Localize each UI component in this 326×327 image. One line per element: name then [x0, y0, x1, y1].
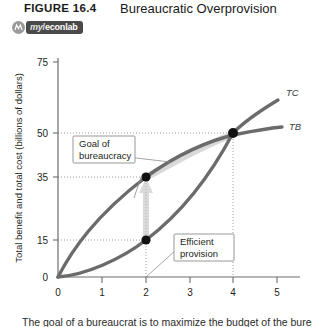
x-axis-title: Quantity (number of satellites) [185, 301, 312, 303]
point-efficient-provision [228, 128, 238, 138]
myeconlab-wordmark-econlab: econlab [45, 23, 78, 32]
annotation-efficient-line2: provision [180, 248, 218, 259]
y-tick-label-75: 75 [37, 57, 49, 68]
annotation-efficient-provision: Efficient provision [146, 234, 234, 277]
y-tick-label-0: 0 [42, 272, 48, 283]
y-axis-ticks [53, 62, 58, 240]
x-tick-label-0: 0 [55, 287, 61, 298]
figure-number: FIGURE 16.4 [24, 2, 96, 14]
y-tick-label-15: 15 [37, 235, 49, 246]
x-axis-ticks [102, 277, 277, 283]
marked-points [141, 128, 238, 245]
curve-label-tc: TC [286, 87, 299, 98]
point-cost-at-q2 [141, 235, 150, 244]
curve-tc [58, 100, 278, 277]
myeconlab-wordmark-my: my [30, 23, 43, 32]
y-axis-title: Total benefit and total cost (billions o… [13, 73, 24, 263]
curve-label-tb: TB [289, 121, 302, 132]
x-tick-labels: 0 1 2 3 4 5 [55, 287, 280, 298]
x-tick-label-2: 2 [143, 287, 149, 298]
overprovision-arrow [139, 178, 153, 238]
x-tick-label-4: 4 [230, 287, 236, 298]
figure-title: Bureaucratic Overprovision [120, 1, 277, 16]
annotation-goal-line2: bureaucracy [79, 150, 132, 161]
figure-header: FIGURE 16.4 Bureaucratic Overprovision [0, 0, 326, 19]
myeconlab-wordmark-slash: / [43, 23, 45, 32]
annotation-goal-line1: Goal of [79, 138, 110, 149]
x-tick-label-5: 5 [274, 287, 280, 298]
annotation-efficient-line1: Efficient [180, 236, 214, 247]
figure-caption: The goal of a bureaucrat is to maximize … [22, 316, 312, 327]
x-tick-label-3: 3 [187, 287, 193, 298]
chart-plot-area: 75 50 35 15 0 0 1 2 3 4 5 TC TB [0, 38, 326, 303]
chart-figure: 75 50 35 15 0 0 1 2 3 4 5 TC TB [0, 38, 326, 303]
myeconlab-badge[interactable]: my/econlab [12, 21, 83, 34]
annotation-goal-of-bureaucracy: Goal of bureaucracy [73, 136, 170, 198]
myeconlab-circle-icon [12, 21, 25, 34]
myeconlab-wordmark: my/econlab [26, 21, 83, 34]
point-goal-of-bureaucracy [141, 172, 150, 181]
x-tick-label-1: 1 [99, 287, 105, 298]
y-tick-labels: 75 50 35 15 0 [37, 57, 49, 283]
y-tick-label-35: 35 [37, 172, 49, 183]
y-tick-label-50: 50 [37, 128, 49, 139]
